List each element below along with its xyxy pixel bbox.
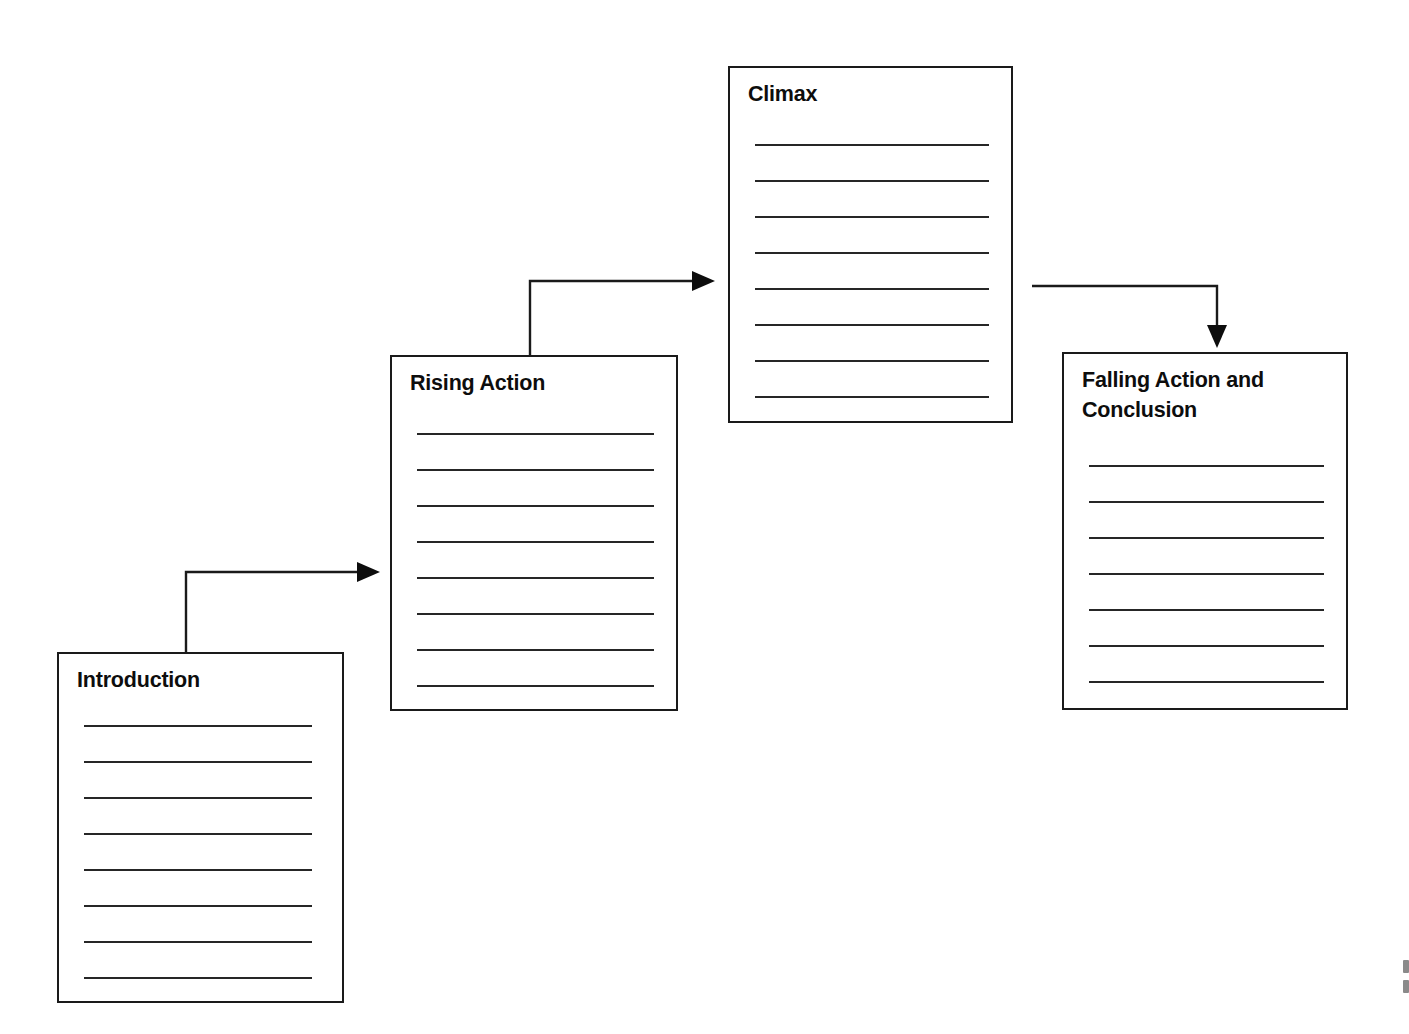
writing-line[interactable] — [1089, 573, 1324, 575]
writing-line[interactable] — [417, 577, 654, 579]
arrow-shaft — [1032, 286, 1217, 325]
writing-line[interactable] — [84, 869, 312, 871]
note-box-rising-action[interactable]: Rising Action — [390, 355, 678, 711]
writing-line[interactable] — [84, 977, 312, 979]
writing-line[interactable] — [1089, 645, 1324, 647]
writing-line[interactable] — [84, 905, 312, 907]
writing-line[interactable] — [84, 941, 312, 943]
page-edge-mark — [1403, 980, 1409, 993]
arrow-shaft — [530, 281, 692, 355]
arrowhead-right-icon — [692, 271, 715, 291]
arrow-shaft — [186, 572, 357, 652]
arrowhead-right-icon — [357, 562, 380, 582]
writing-line[interactable] — [755, 396, 989, 398]
writing-line[interactable] — [755, 324, 989, 326]
writing-line[interactable] — [417, 613, 654, 615]
writing-line[interactable] — [1089, 537, 1324, 539]
writing-lines-climax — [730, 68, 1011, 421]
writing-line[interactable] — [84, 797, 312, 799]
note-box-climax[interactable]: Climax — [728, 66, 1013, 423]
writing-line[interactable] — [1089, 681, 1324, 683]
writing-lines-falling-action-and-conclusion — [1064, 354, 1346, 708]
writing-line[interactable] — [84, 725, 312, 727]
writing-lines-rising-action — [392, 357, 676, 709]
writing-lines-introduction — [59, 654, 342, 1001]
writing-line[interactable] — [755, 252, 989, 254]
writing-line[interactable] — [417, 469, 654, 471]
note-box-falling-action-and-conclusion[interactable]: Falling Action and Conclusion — [1062, 352, 1348, 710]
writing-line[interactable] — [755, 360, 989, 362]
writing-line[interactable] — [417, 541, 654, 543]
writing-line[interactable] — [755, 144, 989, 146]
writing-line[interactable] — [755, 288, 989, 290]
arrow-rising-action-to-climax — [530, 271, 715, 355]
note-box-introduction[interactable]: Introduction — [57, 652, 344, 1003]
writing-line[interactable] — [755, 180, 989, 182]
story-map-canvas: IntroductionRising ActionClimaxFalling A… — [0, 0, 1409, 1034]
writing-line[interactable] — [417, 685, 654, 687]
arrow-climax-to-falling-action — [1032, 286, 1227, 348]
writing-line[interactable] — [1089, 501, 1324, 503]
writing-line[interactable] — [755, 216, 989, 218]
arrow-introduction-to-rising-action — [186, 562, 380, 652]
writing-line[interactable] — [1089, 609, 1324, 611]
writing-line[interactable] — [1089, 465, 1324, 467]
writing-line[interactable] — [84, 833, 312, 835]
arrowhead-down-icon — [1207, 325, 1227, 348]
writing-line[interactable] — [84, 761, 312, 763]
writing-line[interactable] — [417, 433, 654, 435]
writing-line[interactable] — [417, 505, 654, 507]
page-edge-artifact — [1402, 960, 1409, 1012]
page-edge-mark — [1403, 960, 1409, 973]
writing-line[interactable] — [417, 649, 654, 651]
